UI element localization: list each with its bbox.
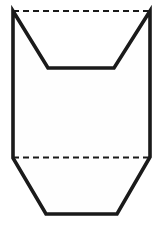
figure-canvas [0,0,163,230]
net-diagram-svg [0,0,163,230]
